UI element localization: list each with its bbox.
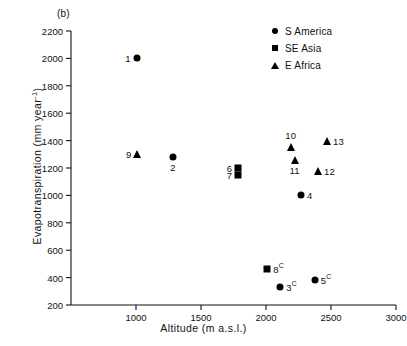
chart-legend: S AmericaSE AsiaE Africa <box>268 24 332 75</box>
y-tick-label: 1800 <box>42 80 63 91</box>
chart-figure: (b) 200400600800100012001400160018002000… <box>0 0 407 346</box>
y-tick-label: 1600 <box>42 108 63 119</box>
point-label-number: 13 <box>333 135 344 146</box>
point-label-number: 12 <box>324 166 335 177</box>
y-axis-ticks <box>66 31 71 305</box>
data-point-1[interactable] <box>133 55 140 62</box>
axis-lines <box>71 31 396 305</box>
y-axis-title-tail: ) <box>31 87 43 91</box>
legend-item-s-america[interactable]: S America <box>268 24 332 38</box>
data-point-10[interactable] <box>287 143 295 151</box>
panel-label: (b) <box>57 8 70 19</box>
y-tick-label: 2000 <box>42 53 63 64</box>
point-label-superscript: C <box>292 281 297 288</box>
y-axis-title: Evapotranspiration (mm year-1) <box>31 36 43 296</box>
data-point-label-5: 5C <box>321 274 331 285</box>
point-label-number: 10 <box>285 130 296 141</box>
point-label-number: 4 <box>307 190 312 201</box>
data-point-label-10: 10 <box>285 130 296 141</box>
legend-item-e-africa[interactable]: E Africa <box>268 58 332 72</box>
data-point-13[interactable] <box>323 137 331 145</box>
y-tick-label: 800 <box>47 217 63 228</box>
y-tick-label: 1000 <box>42 190 63 201</box>
legend-label: S America <box>285 26 332 37</box>
data-point-label-11: 11 <box>290 165 300 176</box>
legend-label: SE Asia <box>285 43 321 54</box>
data-point-5[interactable] <box>311 276 318 283</box>
data-point-11[interactable] <box>291 156 299 164</box>
data-point-label-3: 3C <box>286 282 296 293</box>
y-axis-title-superscript: -1 <box>30 91 39 99</box>
triangle-marker-icon <box>268 62 282 69</box>
data-point-label-7: 7 <box>227 169 232 180</box>
y-tick-label: 400 <box>47 272 63 283</box>
data-point-label-4: 4 <box>307 190 312 201</box>
point-label-superscript: C <box>326 273 331 280</box>
point-label-number: 2 <box>170 162 175 173</box>
data-point-9[interactable] <box>133 150 141 158</box>
point-label-superscript: C <box>279 262 284 269</box>
square-marker-icon <box>268 45 282 51</box>
y-tick-label: 600 <box>47 245 63 256</box>
circle-marker-icon <box>268 28 282 34</box>
x-axis-ticks <box>136 305 396 310</box>
point-label-number: 11 <box>290 165 300 176</box>
y-tick-label: 1400 <box>42 135 63 146</box>
legend-item-se-asia[interactable]: SE Asia <box>268 41 332 55</box>
point-label-number: 7 <box>227 169 232 180</box>
data-point-label-13: 13 <box>333 135 344 146</box>
data-point-4[interactable] <box>298 192 305 199</box>
point-label-number: 1 <box>125 53 130 64</box>
data-point-7[interactable] <box>235 171 242 178</box>
data-point-3[interactable] <box>277 284 284 291</box>
legend-label: E Africa <box>285 60 321 71</box>
y-tick-label: 200 <box>47 300 63 311</box>
x-axis-title: Altitude (m a.s.l.) <box>0 322 407 334</box>
data-point-12[interactable] <box>314 167 322 175</box>
data-point-2[interactable] <box>170 154 177 161</box>
data-point-label-12: 12 <box>324 166 335 177</box>
y-axis-title-text: Evapotranspiration (mm year <box>31 99 43 245</box>
data-point-label-2: 2 <box>170 162 175 173</box>
data-point-label-9: 9 <box>126 149 131 160</box>
point-label-number: 9 <box>126 149 131 160</box>
data-point-8[interactable] <box>264 265 271 272</box>
data-point-label-1: 1 <box>125 53 130 64</box>
y-tick-label: 1200 <box>42 163 63 174</box>
data-point-label-8: 8C <box>273 263 283 274</box>
y-tick-label: 2200 <box>42 26 63 37</box>
